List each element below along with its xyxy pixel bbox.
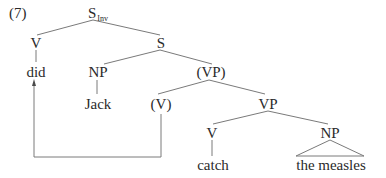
- node-s-inv-subscript: Inv: [97, 14, 108, 23]
- leaf-the-measles: the measles: [296, 157, 366, 173]
- leaf-jack: Jack: [85, 96, 112, 112]
- np-triangle: [296, 140, 364, 156]
- leaf-did: did: [26, 64, 45, 80]
- node-v-trace: (V): [151, 96, 172, 112]
- branch-vp-np: [268, 111, 328, 124]
- branch-vp-trace-vp: [209, 80, 265, 94]
- node-vp: VP: [258, 96, 277, 112]
- node-s: S: [157, 35, 165, 51]
- node-np-subject: NP: [88, 64, 107, 80]
- node-s-inv: SInv: [88, 5, 108, 27]
- arrowhead-icon: [32, 79, 36, 86]
- node-np-object: NP: [320, 125, 339, 141]
- node-v-low: V: [207, 125, 218, 141]
- branch-s-np: [104, 50, 160, 64]
- example-number: (7): [9, 5, 27, 21]
- branch-s-vp-trace: [160, 50, 212, 64]
- branch-sinv-v: [37, 20, 93, 35]
- node-vp-trace: (VP): [196, 64, 225, 80]
- node-s-inv-label: S: [88, 5, 96, 21]
- movement-arrow-line: [34, 84, 161, 157]
- branch-vp-trace-v-trace: [158, 80, 209, 94]
- tree-branches: [0, 0, 386, 178]
- leaf-catch: catch: [197, 157, 229, 173]
- node-v-top: V: [31, 35, 42, 51]
- branch-vp-v: [213, 111, 268, 124]
